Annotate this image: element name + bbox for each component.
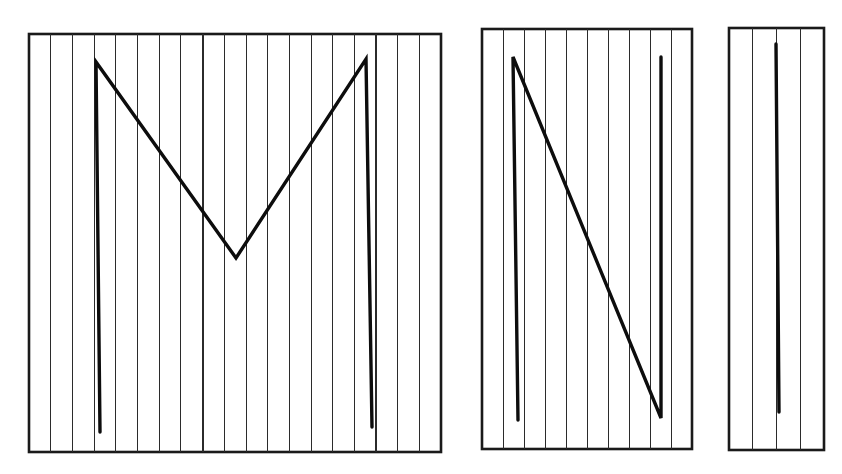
- panel-right: [729, 28, 824, 450]
- panel-left-frame: [29, 34, 441, 452]
- figure-root: [0, 0, 842, 474]
- panel-middle: [482, 29, 692, 449]
- panel-left: [29, 34, 441, 452]
- figure-canvas: [0, 0, 842, 474]
